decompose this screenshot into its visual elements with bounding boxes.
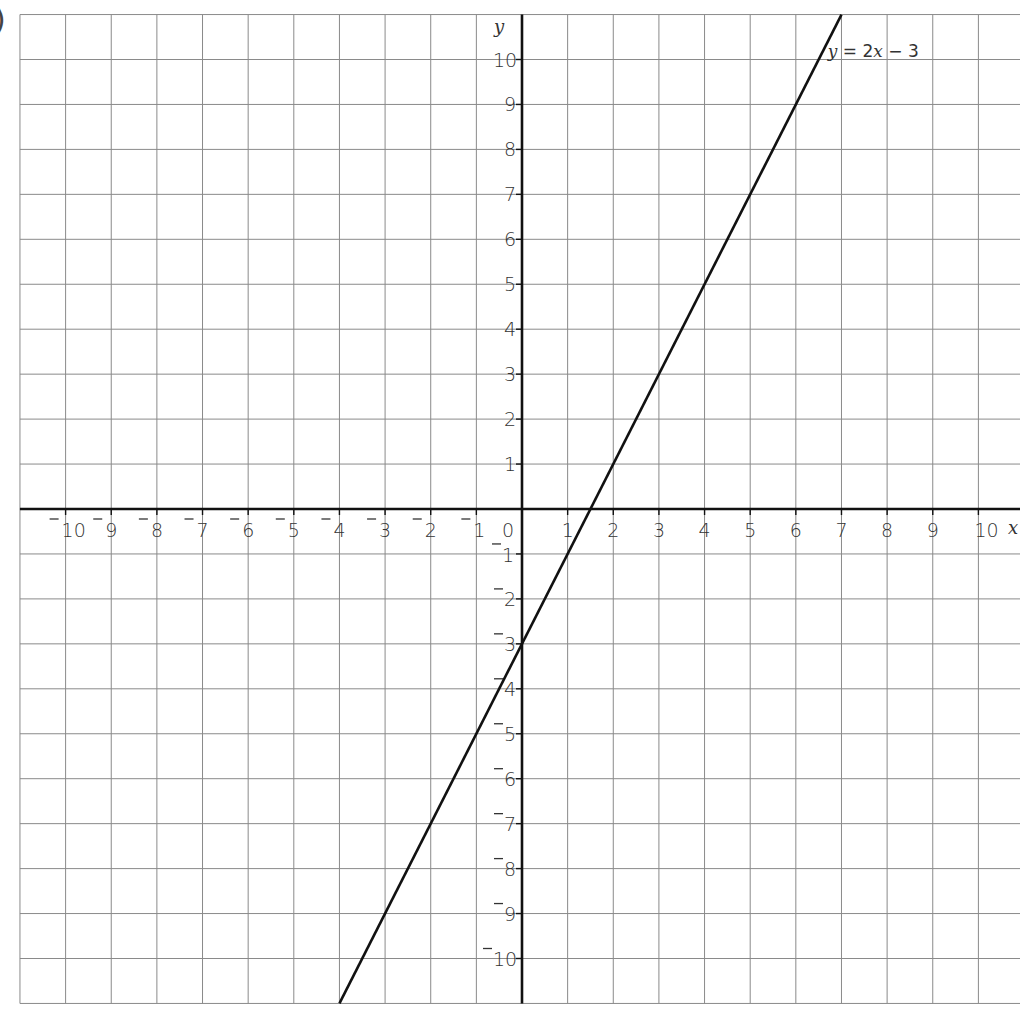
y-tick-label: 1 (504, 453, 516, 475)
y-tick-label: 2 (504, 588, 516, 610)
equation-variable: x (873, 41, 883, 61)
y-tick-label: 6 (504, 768, 516, 790)
x-tick-label: 10 (62, 519, 86, 541)
y-tick-label: 4 (504, 318, 516, 340)
y-tick-label: 9 (504, 903, 516, 925)
y-tick-label: 8 (504, 858, 516, 880)
x-tick-label: 7 (197, 519, 209, 541)
x-tick-label: 1 (562, 519, 574, 541)
y-tick-label: 3 (504, 363, 516, 385)
x-axis-label: x (1008, 517, 1018, 538)
x-tick-label: 3 (379, 519, 391, 541)
y-axis-label: y (493, 16, 505, 37)
x-tick-label: 4 (699, 519, 711, 541)
y-tick-label: 1 (502, 544, 514, 566)
equation-annotation: y = 2x − 3 (827, 41, 919, 61)
y-tick-label: 4 (504, 678, 516, 700)
x-tick-label: 3 (653, 519, 665, 541)
x-tick-label: 2 (425, 519, 437, 541)
y-tick-label: 8 (504, 138, 516, 160)
x-tick-label: 1 (473, 519, 485, 541)
y-tick-label: 7 (504, 183, 516, 205)
y-tick-label: 2 (504, 408, 516, 430)
x-tick-label: 5 (288, 519, 300, 541)
equation-text: = 2 (837, 41, 873, 61)
x-tick-label: 7 (835, 519, 847, 541)
equation-variable: y (827, 41, 838, 61)
y-tick-label: 10 (493, 948, 517, 970)
equation-text: − 3 (883, 41, 919, 61)
y-tick-label: 10 (493, 49, 517, 71)
cropped-label-fragment: ) (0, 2, 6, 37)
coordinate-grid-chart: ) 10987654321012345678910109876543211234… (0, 0, 1020, 1027)
y-tick-label: 7 (504, 813, 516, 835)
y-tick-label: 6 (504, 228, 516, 250)
x-tick-label: 8 (881, 519, 893, 541)
y-tick-label: 3 (504, 633, 516, 655)
y-tick-label: 5 (504, 273, 516, 295)
x-tick-label: 6 (242, 519, 254, 541)
x-tick-label: 0 (502, 519, 514, 541)
axes (20, 15, 1020, 1004)
x-tick-label: 5 (744, 519, 756, 541)
x-tick-label: 9 (105, 519, 117, 541)
y-tick-label: 9 (504, 93, 516, 115)
x-tick-label: 9 (927, 519, 939, 541)
x-tick-label: 2 (607, 519, 619, 541)
y-tick-label: 5 (504, 723, 516, 745)
x-tick-label: 10 (974, 519, 998, 541)
x-tick-label: 6 (790, 519, 802, 541)
x-tick-label: 8 (151, 519, 163, 541)
x-tick-label: 4 (333, 519, 345, 541)
